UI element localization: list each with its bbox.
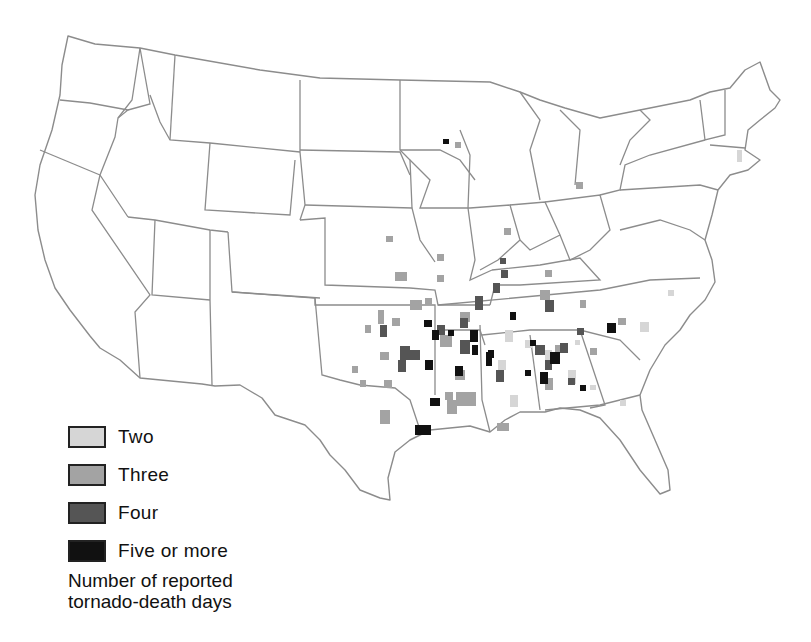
legend-title-line-1: Number of reported (68, 570, 233, 591)
swatch-two (68, 426, 106, 448)
legend-label: Five or more (118, 540, 228, 562)
legend-item-two: Two (68, 418, 228, 456)
legend-item-five-or-more: Five or more (68, 532, 228, 570)
legend-title: Number of reported tornado-death days (68, 570, 233, 612)
swatch-four (68, 502, 106, 524)
legend-item-three: Three (68, 456, 228, 494)
legend: Two Three Four Five or more (68, 418, 228, 570)
legend-title-line-2: tornado-death days (68, 591, 233, 612)
swatch-five-or-more (68, 540, 106, 562)
legend-label: Two (118, 426, 154, 448)
legend-label: Four (118, 502, 158, 524)
swatch-three (68, 464, 106, 486)
legend-item-four: Four (68, 494, 228, 532)
legend-label: Three (118, 464, 169, 486)
